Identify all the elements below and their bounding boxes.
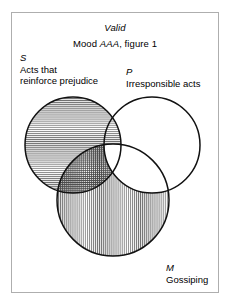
venn-figure: Valid Mood AAA, figure 1 S Acts that rei…: [0, 0, 231, 308]
region-s-and-m-crosshatch-shading: [11, 12, 219, 293]
venn-diagram: [11, 12, 219, 293]
